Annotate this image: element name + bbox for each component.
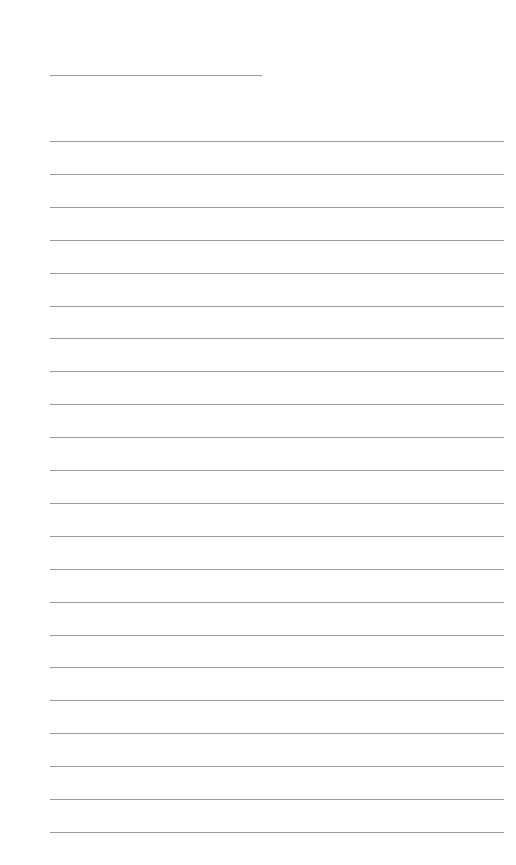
ruled-line [50, 240, 504, 241]
ruled-line [50, 766, 504, 767]
ruled-line [50, 832, 504, 833]
ruled-line [50, 207, 504, 208]
lined-page [0, 0, 516, 865]
ruled-line [50, 437, 504, 438]
ruled-line [50, 470, 504, 471]
title-line [50, 75, 262, 76]
ruled-line [50, 338, 504, 339]
ruled-line [50, 306, 504, 307]
ruled-line [50, 569, 504, 570]
ruled-line [50, 667, 504, 668]
ruled-line [50, 141, 504, 142]
ruled-line [50, 273, 504, 274]
ruled-line [50, 799, 504, 800]
ruled-line [50, 602, 504, 603]
ruled-line [50, 635, 504, 636]
ruled-line [50, 371, 504, 372]
ruled-line [50, 733, 504, 734]
ruled-line [50, 503, 504, 504]
ruled-line [50, 174, 504, 175]
ruled-line [50, 404, 504, 405]
ruled-line [50, 536, 504, 537]
ruled-line [50, 700, 504, 701]
